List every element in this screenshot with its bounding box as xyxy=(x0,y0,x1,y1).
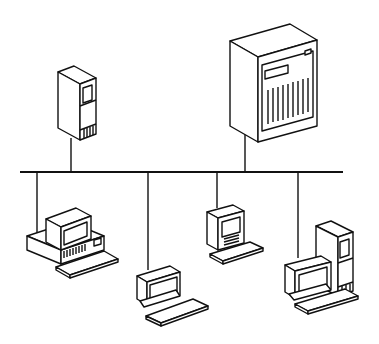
network-diagram: Bus network topology xyxy=(0,0,379,344)
diagram-svg xyxy=(0,0,379,344)
desktop-computer-icon[interactable] xyxy=(27,208,118,278)
tower-workstation-icon[interactable] xyxy=(285,221,358,314)
workstation-icon[interactable] xyxy=(137,266,208,326)
compact-computer-icon[interactable] xyxy=(207,205,263,264)
server-icon[interactable] xyxy=(58,66,96,140)
mainframe-icon[interactable] xyxy=(230,24,317,142)
